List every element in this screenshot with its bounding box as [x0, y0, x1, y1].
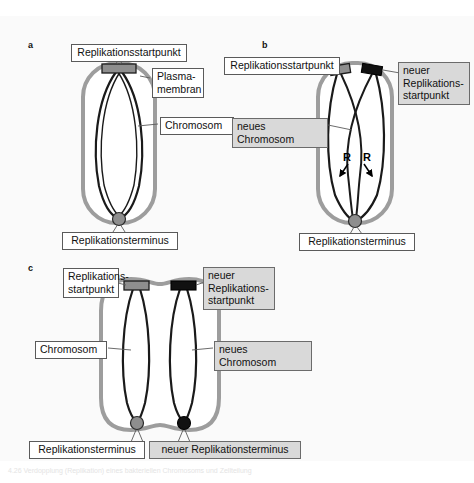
panel-b-terminus-marker: [349, 215, 362, 228]
panel-b-fork-label-left: R: [343, 151, 351, 163]
panel-a-drawing: [83, 57, 158, 232]
panel-a-terminus-marker: [113, 213, 126, 226]
panel-a-plasma-membrane: [83, 63, 155, 223]
panel-a-origin-label: Replikationsstartpunkt: [71, 44, 187, 62]
panel-a-membrane-label: Plasma- membran: [152, 68, 204, 98]
panel-a-chromosome-label: Chromosom: [160, 117, 234, 135]
panel-b-new-chromosome-label: neues Chromosom: [232, 118, 328, 148]
panel-c-drawing: [101, 279, 219, 442]
panel-a-origin-marker: [102, 64, 136, 73]
panel-c-new-terminus-label: neuer Replikationsterminus: [149, 441, 301, 459]
panel-c-origin-old-marker: [124, 281, 149, 290]
panel-c-terminus-new-marker: [178, 417, 191, 430]
panel-c-new-origin-label: neuer Replikations- startpunkt: [203, 267, 275, 310]
panel-letter-b: b: [262, 40, 268, 50]
panel-b-origin-label: Replikationsstartpunkt: [224, 57, 340, 75]
panel-c-terminus-label: Replikationsterminus: [29, 441, 145, 459]
panel-c-chromosome-label: Chromosom: [35, 341, 107, 359]
panel-c-terminus-old-marker: [131, 417, 144, 430]
panel-c-plasma-membrane: [101, 279, 219, 430]
panel-a-terminus-label: Replikationsterminus: [62, 232, 178, 250]
panel-b-drawing: [311, 63, 400, 234]
panel-b-fork-label-right: R: [363, 151, 371, 163]
panel-c-origin-label: Replikations- startpunkt: [63, 268, 119, 298]
panel-letter-a: a: [28, 40, 33, 50]
panel-b-new-origin-label: neuer Replikations- startpunkt: [398, 62, 470, 105]
figure-caption: 4.26 Verdopplung (Replikation) eines bak…: [8, 466, 468, 475]
panel-b-terminus-label: Replikationsterminus: [299, 233, 415, 251]
panel-c-new-chromosome-label: neues Chromosom: [214, 341, 312, 371]
panel-letter-c: c: [28, 263, 33, 273]
panel-c-origin-new-marker: [171, 281, 196, 290]
